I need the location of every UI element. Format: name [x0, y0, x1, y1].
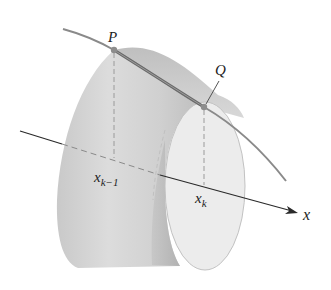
label-p: P	[107, 29, 117, 45]
x-axis-solid-left	[20, 131, 62, 144]
point-q	[201, 104, 207, 110]
point-p	[111, 47, 117, 53]
label-q: Q	[215, 62, 226, 78]
label-x-axis: x	[302, 206, 310, 223]
frustum-diagram: P Q xk−1 xk x	[0, 0, 331, 290]
